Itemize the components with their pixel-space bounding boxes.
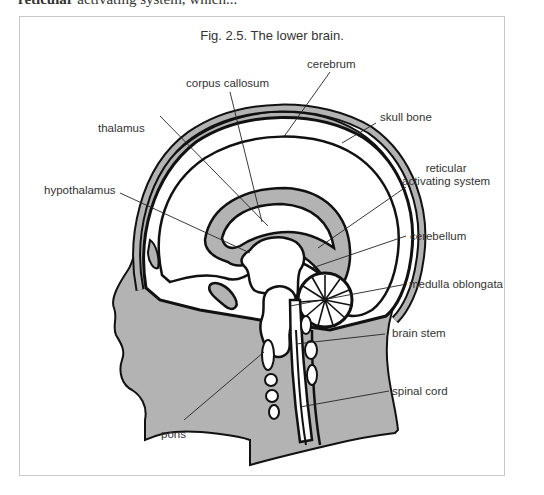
label-thalamus: thalamus xyxy=(98,122,145,135)
label-medulla-oblongata: medulla oblongata xyxy=(409,278,503,291)
label-cerebrum: cerebrum xyxy=(307,58,356,71)
label-hypothalamus: hypothalamus xyxy=(44,184,116,197)
label-spinal-cord: spinal cord xyxy=(392,385,448,398)
label-reticular-activating-system: reticular activating system xyxy=(402,162,490,188)
brain-illustration xyxy=(0,0,544,495)
label-cerebellum: cerebellum xyxy=(410,230,466,243)
label-reticular-line1: reticular xyxy=(402,162,490,175)
label-reticular-line2: activating system xyxy=(402,175,490,188)
figure-title: Fig. 2.5. The lower brain. xyxy=(0,28,544,43)
label-pons: pons xyxy=(161,428,186,441)
label-brain-stem: brain stem xyxy=(392,327,446,340)
label-corpus-callosum: corpus callosum xyxy=(186,77,269,90)
label-skull-bone: skull bone xyxy=(380,111,432,124)
